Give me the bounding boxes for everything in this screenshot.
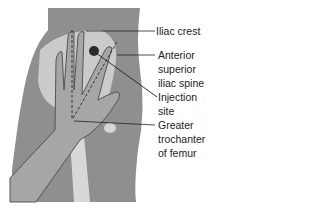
label-trochanter-line1: Greater	[158, 119, 194, 132]
label-iliac-crest: Iliac crest	[156, 25, 200, 38]
label-injection-line2: site	[158, 105, 174, 118]
label-injection-line1: Injection	[158, 91, 197, 104]
label-trochanter-line3: of femur	[158, 147, 197, 160]
label-asis-line2: superior	[158, 63, 196, 76]
label-trochanter-line2: trochanter	[158, 133, 205, 146]
bone-fragment	[104, 123, 116, 133]
label-asis-line3: iliac spine	[158, 77, 204, 90]
label-asis-line1: Anterior	[158, 49, 195, 62]
